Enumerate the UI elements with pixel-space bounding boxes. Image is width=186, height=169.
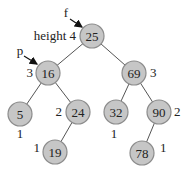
- tree-node-24: 242: [56, 100, 91, 124]
- node-value: 25: [86, 29, 99, 44]
- height-label: 1: [111, 126, 118, 141]
- pointer-label-p: p: [17, 43, 24, 58]
- tree-node-16: 163: [27, 61, 61, 85]
- node-value: 90: [153, 105, 166, 120]
- node-value: 19: [49, 145, 62, 160]
- tree-node-19: 191: [34, 140, 68, 164]
- height-label: height 4: [34, 28, 77, 43]
- node-value: 16: [42, 66, 56, 81]
- node-value: 24: [72, 105, 86, 120]
- height-label: 2: [56, 104, 63, 119]
- node-value: 5: [17, 107, 24, 122]
- pointer-arrow-icon: [70, 19, 82, 27]
- height-label: 2: [174, 104, 181, 119]
- node-value: 78: [136, 146, 149, 161]
- height-label: 1: [34, 140, 41, 155]
- tree-node-25: 25height 4: [34, 24, 104, 48]
- height-label: 1: [17, 126, 24, 141]
- pointer-arrow-icon: [24, 56, 37, 64]
- tree-node-90: 902: [147, 100, 181, 124]
- height-label: 1: [160, 140, 167, 155]
- tree-node-78: 781: [130, 140, 167, 165]
- pointer-label-f: f: [64, 5, 69, 20]
- tree-node-69: 693: [122, 61, 157, 85]
- tree-edges: [20, 36, 159, 153]
- node-value: 69: [128, 66, 141, 81]
- node-value: 32: [110, 105, 123, 120]
- height-label: 3: [27, 65, 34, 80]
- height-label: 3: [150, 65, 157, 80]
- tree-node-5: 51: [8, 102, 32, 141]
- tree-node-32: 321: [104, 100, 128, 141]
- avl-tree-diagram: fp 25height 416369351242321902191781: [0, 0, 186, 169]
